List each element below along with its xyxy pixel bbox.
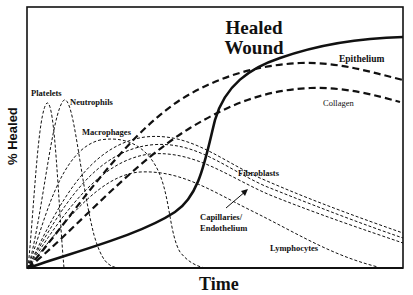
label-epithelium: Epithelium bbox=[339, 54, 384, 64]
label-fibroblasts: Fibroblasts bbox=[238, 168, 279, 178]
label-capillaries: Capillaries/ Endothelium bbox=[200, 212, 247, 234]
chart-title: Healed Wound bbox=[219, 18, 289, 58]
label-capillaries-line-1: Capillaries/ bbox=[200, 212, 247, 223]
title-line-2: Wound bbox=[219, 38, 289, 58]
y-axis-label: % Healed bbox=[5, 107, 20, 165]
label-neutrophils: Neutrophils bbox=[70, 97, 113, 107]
label-lymphocytes: Lymphocytes bbox=[270, 243, 318, 253]
wound-healing-chart bbox=[0, 0, 413, 295]
label-collagen: Collagen bbox=[323, 98, 354, 108]
title-line-1: Healed bbox=[219, 18, 289, 38]
series-macrophages bbox=[28, 139, 205, 268]
series-platelets bbox=[28, 103, 64, 268]
series-epithelium bbox=[28, 63, 403, 268]
series-collagen bbox=[28, 88, 400, 268]
label-capillaries-line-2: Endothelium bbox=[200, 223, 247, 234]
label-macrophages: Macrophages bbox=[82, 127, 131, 137]
x-axis-label: Time bbox=[199, 274, 239, 295]
label-platelets: Platelets bbox=[31, 88, 62, 98]
